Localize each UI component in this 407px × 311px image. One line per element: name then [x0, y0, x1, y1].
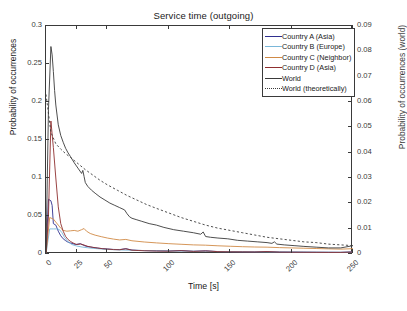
legend-item[interactable]: World (theoretically): [265, 84, 351, 95]
legend-item-label: World (theoretically): [282, 84, 347, 93]
y-tick-left: [45, 139, 49, 140]
y-tick-right: [348, 202, 352, 203]
legend-item-label: Country C (Neighbor): [282, 53, 351, 62]
x-tick: [291, 249, 292, 253]
y-tick-label-right: 0.03: [357, 172, 372, 181]
legend-item-label: Country A (Asia): [282, 32, 335, 41]
y-tick-right: [348, 228, 352, 229]
y-axis-title-right: Probability of occurrences (world): [397, 0, 407, 182]
legend-item-label: Country B (Europe): [282, 42, 345, 51]
y-tick-label-left: 0.2: [31, 96, 42, 105]
legend-item-label: World: [282, 74, 301, 83]
y-tick-right: [348, 152, 352, 153]
legend-item[interactable]: Country B (Europe): [265, 42, 351, 53]
y-tick-left: [45, 177, 49, 178]
y-tick-label-right: 0.06: [357, 96, 372, 105]
x-tick: [168, 249, 169, 253]
chart-legend: Country A (Asia)Country B (Europe)Countr…: [262, 28, 355, 97]
legend-line-swatch: [265, 53, 282, 62]
y-tick-label-right: 0.05: [357, 121, 372, 130]
y-tick-label-right: 0: [357, 248, 361, 257]
y-tick-left: [45, 253, 49, 254]
y-tick-label-left: 0.3: [31, 20, 42, 29]
y-tick-label-left: 0.25: [27, 58, 42, 67]
series-line-5: [46, 94, 353, 245]
legend-line-swatch: [265, 84, 282, 93]
legend-line-swatch: [265, 32, 282, 41]
chart-title: Service time (outgoing): [0, 10, 407, 21]
y-tick-label-left: 0.1: [31, 172, 42, 181]
x-tick: [352, 249, 353, 253]
y-tick-left: [45, 215, 49, 216]
y-tick-right: [348, 126, 352, 127]
legend-line-swatch: [265, 63, 282, 72]
x-tick: [106, 249, 107, 253]
legend-line-swatch: [265, 42, 282, 51]
y-tick-label-right: 0.01: [357, 223, 372, 232]
y-tick-label-left: 0.15: [27, 134, 42, 143]
y-tick-left: [45, 63, 49, 64]
x-tick-top: [106, 25, 107, 29]
y-tick-right: [348, 177, 352, 178]
y-tick-label-left: 0.05: [27, 210, 42, 219]
x-tick-top: [76, 25, 77, 29]
y-tick-label-left: 0: [38, 248, 42, 257]
y-tick-right: [348, 253, 352, 254]
y-axis-title-left: Probability of occurrences: [8, 12, 18, 162]
x-tick: [45, 249, 46, 253]
y-tick-label-right: 0.09: [357, 20, 372, 29]
y-tick-label-right: 0.07: [357, 71, 372, 80]
y-tick-label-right: 0.04: [357, 147, 372, 156]
y-tick-label-right: 0.08: [357, 45, 372, 54]
legend-item[interactable]: World: [265, 73, 351, 84]
legend-item-label: Country D (Asia): [282, 63, 336, 72]
x-tick-top: [45, 25, 46, 29]
x-tick: [229, 249, 230, 253]
x-tick: [76, 249, 77, 253]
x-tick-top: [168, 25, 169, 29]
series-line-0: [46, 199, 353, 254]
legend-item[interactable]: Country C (Neighbor): [265, 52, 351, 63]
legend-item[interactable]: Country A (Asia): [265, 31, 351, 42]
legend-line-swatch: [265, 74, 282, 83]
x-tick-top: [229, 25, 230, 29]
chart-figure: Service time (outgoing) 00.050.10.150.20…: [0, 0, 407, 311]
legend-item[interactable]: Country D (Asia): [265, 63, 351, 74]
y-tick-left: [45, 101, 49, 102]
y-tick-right: [348, 101, 352, 102]
series-line-1: [46, 229, 353, 254]
y-tick-label-right: 0.02: [357, 197, 372, 206]
x-axis-title: Time [s]: [0, 281, 407, 291]
